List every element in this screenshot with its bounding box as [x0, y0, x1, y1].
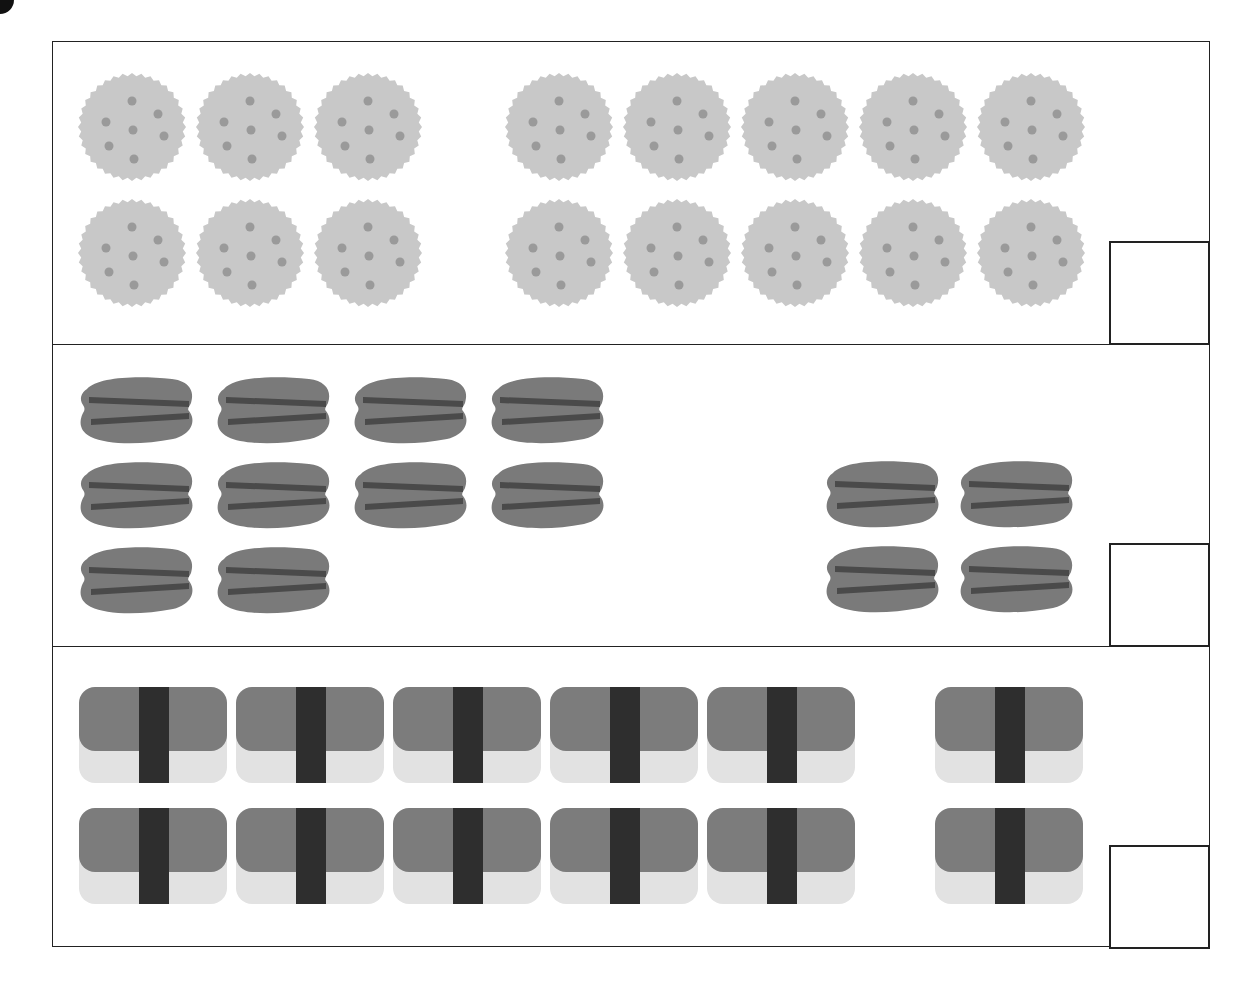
sushi-icon [550, 687, 698, 783]
answer-box-macarons[interactable] [1109, 543, 1210, 647]
problem-sushi [53, 646, 1209, 948]
cracker-icon [740, 72, 850, 182]
macaron-icon [214, 375, 338, 445]
cracker-icon [976, 72, 1086, 182]
answer-box-crackers[interactable] [1109, 241, 1210, 345]
cracker-icon [740, 198, 850, 308]
cracker-icon [976, 198, 1086, 308]
cracker-icon [858, 72, 968, 182]
cracker-icon [504, 72, 614, 182]
macaron-icon [214, 545, 338, 615]
cracker-icon [858, 198, 968, 308]
sushi-icon [79, 687, 227, 783]
corner-mark [0, 0, 14, 14]
cracker-icon [313, 72, 423, 182]
sushi-icon [393, 808, 541, 904]
macaron-icon [823, 459, 947, 529]
problem-crackers [53, 42, 1209, 344]
cracker-icon [77, 72, 187, 182]
sushi-icon [393, 687, 541, 783]
cracker-icon [504, 198, 614, 308]
cracker-icon [313, 198, 423, 308]
sushi-icon [935, 687, 1083, 783]
answer-box-sushi[interactable] [1109, 845, 1210, 949]
macaron-icon [351, 460, 475, 530]
macaron-icon [351, 375, 475, 445]
cracker-icon [195, 198, 305, 308]
macaron-icon [214, 460, 338, 530]
cracker-icon [77, 198, 187, 308]
cracker-icon [622, 198, 732, 308]
macaron-icon [957, 544, 1081, 614]
sushi-icon [236, 808, 384, 904]
macaron-icon [957, 459, 1081, 529]
sushi-icon [236, 687, 384, 783]
cracker-icon [622, 72, 732, 182]
macaron-icon [77, 545, 201, 615]
macaron-icon [488, 460, 612, 530]
problem-macarons [53, 344, 1209, 646]
macaron-icon [77, 375, 201, 445]
sushi-icon [707, 687, 855, 783]
macaron-icon [823, 544, 947, 614]
sushi-icon [707, 808, 855, 904]
macaron-icon [77, 460, 201, 530]
sushi-icon [79, 808, 227, 904]
worksheet [52, 41, 1210, 947]
sushi-icon [935, 808, 1083, 904]
cracker-icon [195, 72, 305, 182]
macaron-icon [488, 375, 612, 445]
sushi-icon [550, 808, 698, 904]
